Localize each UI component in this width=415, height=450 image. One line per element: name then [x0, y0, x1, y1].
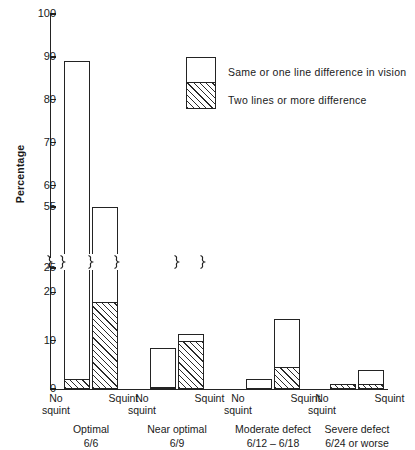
- legend-swatch-two-or-more-lines: [187, 83, 215, 108]
- y-tick-label: 55: [14, 201, 56, 212]
- x-sublabel-no-squint: Nosquint: [112, 393, 172, 416]
- x-sublabel-squint: Squint: [357, 393, 415, 405]
- axis-break-icon: [46, 254, 58, 270]
- x-sublabel-no-squint: Nosquint: [208, 393, 268, 416]
- y-tick-label: 10: [14, 335, 56, 346]
- y-tick-label: 60: [14, 180, 56, 191]
- y-tick-label: 100: [14, 8, 56, 19]
- bar-break-icon: [86, 254, 100, 270]
- bar-segment-two-or-more-lines: [274, 367, 300, 389]
- x-group-label: NosquintSquintSevere defect6/24 or worse: [292, 393, 415, 450]
- bar-break-icon: [172, 254, 186, 270]
- bar-segment-two-or-more-lines: [358, 384, 384, 389]
- bar-break-icon: [198, 254, 212, 270]
- legend-label-same-or-one-line: Same or one line difference in vision: [228, 66, 406, 78]
- bar-no-squint: [246, 379, 272, 389]
- legend-label-two-or-more-lines: Two lines or more difference: [228, 94, 367, 106]
- x-category-label: Severe defect6/24 or worse: [292, 422, 415, 450]
- y-tick-label-text: 10: [26, 335, 56, 346]
- x-axis-baseline: [50, 389, 388, 390]
- bar-no-squint: [64, 61, 90, 389]
- y-tick-label-text: 100: [26, 8, 56, 19]
- y-tick-label: 80: [14, 94, 56, 105]
- y-tick-label: 70: [14, 137, 56, 148]
- bar-segment-two-or-more-lines: [150, 387, 176, 390]
- bar-break-icon: [58, 254, 72, 270]
- bar-segment-two-or-more-lines: [330, 384, 356, 389]
- bar-segment-two-or-more-lines: [64, 379, 90, 389]
- bar-chart: Percentage 01020255560708090100 Nosquint…: [0, 0, 415, 450]
- bar-no-squint: [150, 348, 176, 389]
- x-sublabel-no-squint: Nosquint: [26, 393, 86, 416]
- y-tick-label-text: 20: [26, 286, 56, 297]
- y-tick-label-text: 60: [26, 180, 56, 191]
- y-tick-label: 90: [14, 51, 56, 62]
- y-tick-label-text: 90: [26, 51, 56, 62]
- x-category-acuity: 6/24 or worse: [292, 436, 415, 450]
- bar-segment-two-or-more-lines: [92, 302, 118, 389]
- x-sublabel-no-squint: Nosquint: [292, 393, 352, 416]
- bar-segment-two-or-more-lines: [178, 341, 204, 389]
- legend-swatch-same-or-one-line: [187, 58, 215, 83]
- y-tick-label-text: 80: [26, 94, 56, 105]
- bar-break-icon: [112, 254, 126, 270]
- y-tick-label: 20: [14, 286, 56, 297]
- x-category-name: Severe defect: [292, 422, 415, 436]
- y-tick-label-text: 70: [26, 137, 56, 148]
- legend-swatch-box: [186, 57, 216, 109]
- y-tick-label-text: 55: [26, 201, 56, 212]
